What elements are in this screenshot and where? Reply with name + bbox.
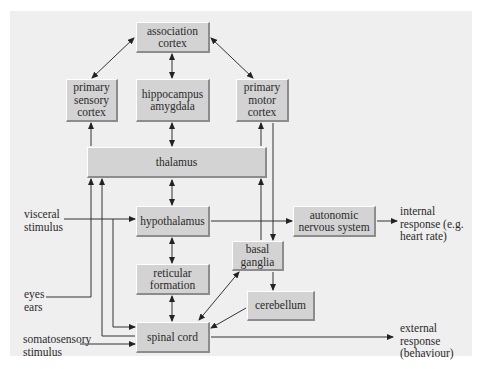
output-internal-response: internal response (e.g. heart rate) (400, 205, 464, 243)
node-primary-sensory-cortex: primary sensory cortex (66, 79, 118, 122)
input-somatosensory-stimulus: somatosensory stimulus (23, 333, 91, 358)
input-eyes-ears: eyes ears (24, 288, 44, 313)
node-autonomic-nervous-system: autonomic nervous system (293, 206, 376, 237)
node-cerebellum: cerebellum (247, 291, 315, 321)
node-reticular-formation: reticular formation (136, 264, 210, 295)
input-visceral-stimulus: visceral stimulus (24, 208, 63, 233)
node-hypothalamus: hypothalamus (136, 206, 210, 237)
node-spinal-cord: spinal cord (136, 322, 210, 353)
connector-lines (0, 0, 483, 369)
node-thalamus: thalamus (87, 147, 267, 178)
node-basal-ganglia: basal ganglia (232, 241, 284, 271)
node-hippocampus-amygdala: hippocampus amygdala (136, 79, 210, 122)
output-external-response: external response (behaviour) (400, 322, 454, 360)
node-primary-motor-cortex: primary motor cortex (236, 79, 289, 122)
node-association-cortex: association cortex (136, 22, 210, 53)
